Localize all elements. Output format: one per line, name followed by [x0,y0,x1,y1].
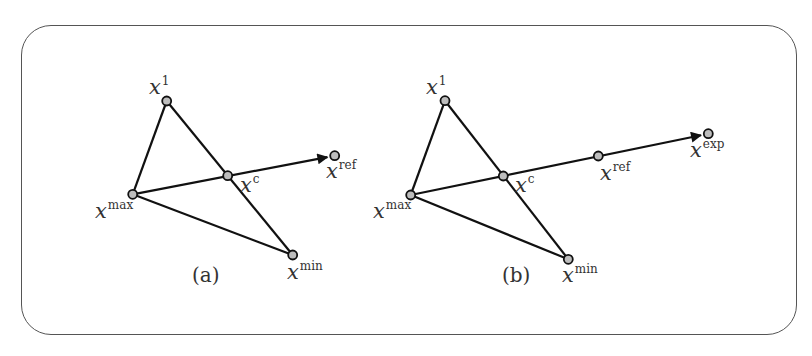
node-xc [499,172,508,181]
node-label-xmin: xmin [287,259,323,284]
panel-b: x1xmaxxcxrefxexpxmin(b) [373,74,725,287]
diagram-figure: x1xmaxxcxrefxmin(a) x1xmaxxcxrefxexpxmin… [0,0,812,356]
panel-label-b: (b) [502,263,530,287]
node-x1 [162,97,171,106]
edge-xmax-x1 [133,101,167,194]
node-label-xref: xref [600,160,632,185]
node-label-xc: xc [515,172,535,197]
edge-xmax-xexp [411,135,701,195]
node-label-xmax: xmax [95,198,133,223]
node-xmin [288,251,297,260]
diagram-canvas: x1xmaxxcxrefxmin(a) x1xmaxxcxrefxexpxmin… [0,0,812,356]
node-label-xmax: xmax [373,198,411,223]
node-label-xref: xref [326,158,358,183]
node-xc [223,171,232,180]
node-xref [594,152,603,161]
node-x1 [441,96,450,105]
panel-a: x1xmaxxcxrefxmin(a) [95,74,358,287]
node-label-xc: xc [240,172,260,197]
node-label-xmin: xmin [562,262,598,287]
node-label-xexp: xexp [690,137,725,162]
panel-label-a: (a) [192,263,220,287]
node-label-x1: x1 [149,74,169,99]
node-label-x1: x1 [426,74,446,99]
edge-xmax-x1 [411,101,445,195]
